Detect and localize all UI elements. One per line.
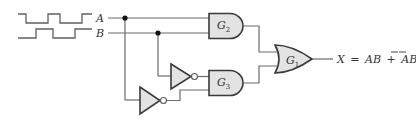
output-expression: X = AB + AB <box>336 52 416 66</box>
inverter-a-bubble <box>161 98 167 104</box>
gate-g1-or: G1 <box>275 45 312 73</box>
inverter-a <box>140 87 167 114</box>
wire-g3-to-g1 <box>243 66 279 83</box>
junction-dot-b <box>155 30 160 35</box>
inverter-b-bubble <box>192 74 198 80</box>
svg-text:X = AB +: X = AB + AB <box>336 53 416 66</box>
wire-g2-to-g1 <box>243 26 279 52</box>
input-label-a: A <box>95 12 104 25</box>
waveform-b <box>18 29 92 38</box>
gate-g3-and: G3 <box>209 71 243 96</box>
waveform-a <box>18 14 92 23</box>
inverter-b <box>171 64 198 89</box>
wire-b <box>108 33 209 76</box>
junction-dot-a <box>122 15 127 20</box>
logic-circuit-diagram: A B G2 G3 G1 <box>0 0 416 124</box>
gate-g2-and: G2 <box>209 14 243 39</box>
wire-nota <box>167 90 210 101</box>
input-label-b: B <box>95 27 104 40</box>
